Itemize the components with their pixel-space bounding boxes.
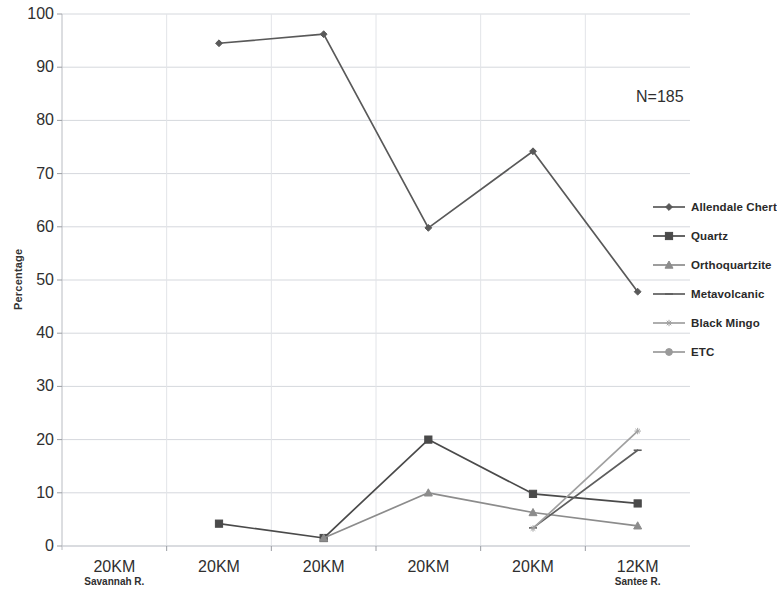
series-line — [219, 34, 638, 291]
x-tick-distance: 20KM — [512, 558, 554, 576]
legend-item-orthoquartzite[interactable]: Orthoquartzite — [652, 250, 777, 279]
legend-label: ETC — [691, 346, 714, 358]
x-tick-distance: 20KM — [303, 558, 345, 576]
data-point-diamond — [666, 203, 673, 210]
data-point-diamond — [216, 40, 223, 47]
x-tick-river-label: Santee R. — [615, 576, 661, 588]
legend-marker-asterisk-icon — [652, 316, 686, 330]
legend-label: Quartz — [691, 230, 728, 242]
x-tick-distance: 20KM — [198, 558, 240, 576]
legend-marker-triangle-icon — [652, 258, 686, 272]
x-tick-label: 12KMSantee R. — [615, 558, 661, 588]
data-point-circle — [666, 348, 673, 355]
legend-item-etc[interactable]: ETC — [652, 337, 777, 366]
sample-size-annotation: N=185 — [636, 88, 684, 106]
legend-label: Metavolcanic — [691, 288, 764, 300]
legend-item-metavolcanic[interactable]: Metavolcanic — [652, 279, 777, 308]
legend-label: Black Mingo — [691, 317, 760, 329]
x-tick-distance: 12KM — [615, 558, 661, 576]
data-point-square — [425, 436, 432, 443]
x-tick-label: 20KM — [512, 558, 554, 576]
data-point-asterisk — [666, 319, 672, 325]
legend-marker-circle-icon — [652, 345, 686, 359]
data-point-square — [215, 520, 222, 527]
legend-marker-square-icon — [652, 229, 686, 243]
line-chart: Percentage 1009080706050403020100 20KMSa… — [0, 0, 777, 598]
legend-label: Allendale Chert — [691, 201, 777, 213]
x-tick-label: 20KM — [198, 558, 240, 576]
legend-marker-dash-icon — [652, 287, 686, 301]
data-point-diamond — [320, 31, 327, 38]
x-tick-distance: 20KM — [84, 558, 144, 576]
x-tick-label: 20KMSavannah R. — [84, 558, 144, 588]
data-point-asterisk — [634, 428, 640, 434]
legend-marker-diamond-icon — [652, 200, 686, 214]
data-point-square — [634, 500, 641, 507]
x-tick-label: 20KM — [407, 558, 449, 576]
data-point-square — [665, 232, 672, 239]
data-point-asterisk — [530, 525, 536, 531]
legend: Allendale ChertQuartzOrthoquartziteMetav… — [652, 192, 777, 366]
legend-label: Orthoquartzite — [691, 259, 772, 271]
data-point-square — [529, 490, 536, 497]
legend-item-quartz[interactable]: Quartz — [652, 221, 777, 250]
x-tick-distance: 20KM — [407, 558, 449, 576]
x-tick-river-label: Savannah R. — [84, 576, 144, 588]
x-tick-label: 20KM — [303, 558, 345, 576]
legend-item-black-mingo[interactable]: Black Mingo — [652, 308, 777, 337]
legend-item-allendale-chert[interactable]: Allendale Chert — [652, 192, 777, 221]
series-allendale-chert — [216, 31, 641, 295]
